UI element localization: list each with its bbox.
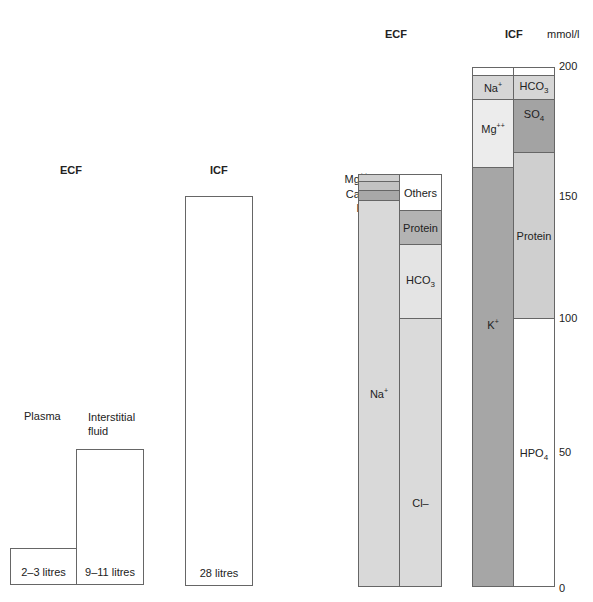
ecf-composition-header: ECF	[385, 28, 407, 40]
icf-cations-column: Na+ Mg++ K+	[472, 67, 514, 587]
ecf-volume-header: ECF	[60, 164, 82, 176]
ecf-cl-label: Cl–	[412, 497, 429, 509]
icf-volume-value: 28 litres	[186, 567, 252, 579]
icf-hco3-segment: HCO3	[514, 76, 554, 100]
ecf-hco3-segment: HCO3	[400, 245, 441, 319]
ecf-others-label: Others	[404, 187, 437, 199]
ecf-hco3-label: HCO3	[406, 274, 435, 289]
plasma-volume-bar: 2–3 litres	[10, 548, 77, 585]
icf-protein-label: Protein	[517, 230, 552, 242]
icf-so4-segment: SO4	[514, 100, 554, 153]
x-axis-line	[472, 586, 555, 587]
icf-mg-segment: Mg++	[473, 100, 513, 168]
icf-hpo4-label: HPO4	[520, 447, 548, 462]
tick-150: 150	[559, 190, 577, 202]
icf-hpo4-segment: HPO4	[514, 319, 554, 586]
interstitial-volume-value: 9–11 litres	[77, 566, 143, 578]
tick-200: 200	[559, 60, 577, 72]
ecf-others-segment: Others	[400, 175, 441, 211]
icf-protein-segment: Protein	[514, 153, 554, 319]
icf-hco3-label: HCO3	[520, 80, 549, 95]
ecf-k-segment	[359, 191, 399, 201]
icf-k-label: K+	[487, 318, 498, 331]
interstitial-volume-bar: 9–11 litres	[76, 449, 144, 585]
ecf-anions-column: Others Protein HCO3 Cl–	[399, 174, 442, 587]
icf-volume-bar: 28 litres	[185, 196, 253, 586]
icf-na-label: Na+	[484, 81, 502, 94]
icf-blank-top-left	[473, 68, 513, 76]
icf-blank-top-right	[514, 68, 554, 76]
tick-0: 0	[559, 582, 565, 594]
ecf-protein-label: Protein	[403, 222, 438, 234]
ecf-protein-segment: Protein	[400, 211, 441, 245]
y-axis-line	[554, 67, 555, 587]
ecf-cl-segment: Cl–	[400, 319, 441, 586]
tick-100: 100	[559, 312, 577, 324]
interstitial-label: Interstitial fluid	[88, 410, 135, 438]
ecf-na-label: Na+	[370, 387, 388, 400]
icf-composition-header: ICF	[505, 28, 523, 40]
interstitial-label-line2: fluid	[88, 424, 135, 438]
plasma-volume-value: 2–3 litres	[11, 566, 76, 578]
plasma-label: Plasma	[24, 410, 61, 422]
unit-label: mmol/l	[547, 28, 579, 40]
ecf-mg-segment	[359, 175, 399, 182]
icf-volume-header: ICF	[210, 164, 228, 176]
tick-50: 50	[559, 446, 571, 458]
icf-anions-column: HCO3 SO4 Protein HPO4	[513, 67, 555, 587]
icf-k-segment: K+	[473, 168, 513, 586]
ecf-cations-column: Na+	[358, 174, 400, 587]
interstitial-label-line1: Interstitial	[88, 410, 135, 424]
icf-mg-label: Mg++	[481, 122, 504, 135]
ecf-na-segment: Na+	[359, 201, 399, 586]
icf-so4-label: SO4	[524, 108, 544, 123]
ecf-ca-segment	[359, 182, 399, 191]
icf-na-segment: Na+	[473, 76, 513, 100]
